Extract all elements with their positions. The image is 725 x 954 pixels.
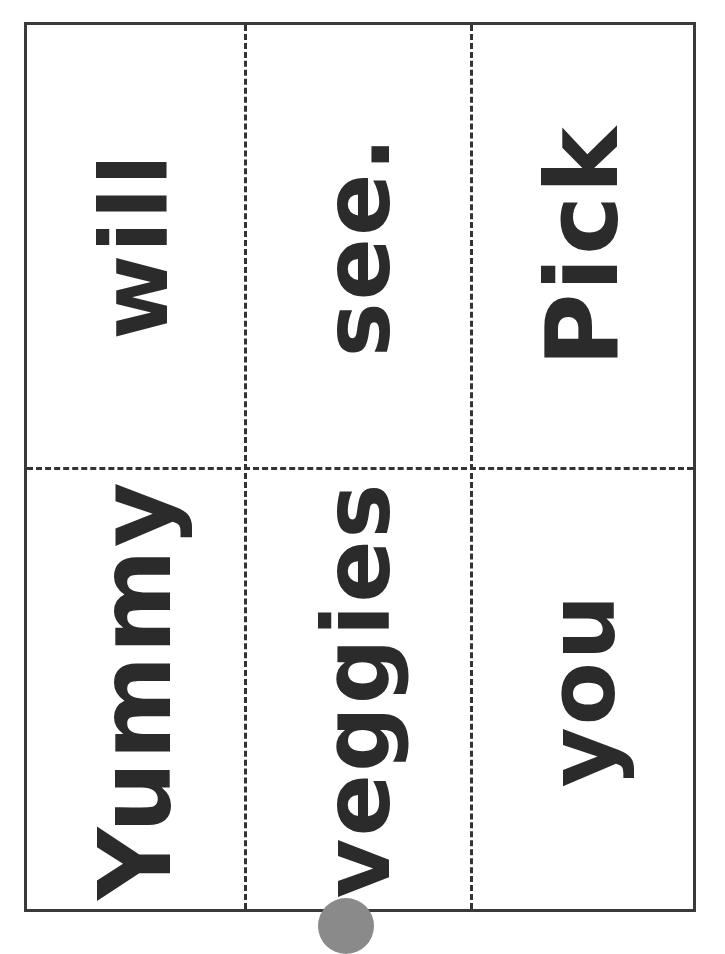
card-sheet: will see. Pick Yummy veggies you	[24, 22, 696, 912]
card-word: veggies	[313, 481, 405, 898]
card-pick: Pick	[473, 25, 693, 467]
card-yummy: Yummy	[27, 470, 245, 909]
card-see: see.	[247, 25, 470, 467]
card-word: will	[90, 152, 182, 340]
card-word: see.	[312, 135, 404, 358]
page-marker-circle	[318, 898, 374, 954]
card-word: Yummy	[86, 480, 186, 900]
card-word: you	[537, 592, 629, 787]
card-you: you	[473, 470, 693, 909]
card-will: will	[27, 25, 245, 467]
card-word: Pick	[533, 125, 633, 366]
card-veggies: veggies	[247, 470, 470, 909]
